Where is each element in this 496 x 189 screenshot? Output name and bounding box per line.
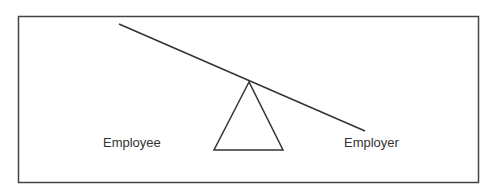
balance-diagram: Employee Employer [0,0,496,189]
fulcrum-triangle [214,82,283,150]
employee-label: Employee [103,135,161,150]
seesaw-beam [119,24,365,131]
frame-border [19,17,479,183]
employer-label: Employer [344,135,400,150]
